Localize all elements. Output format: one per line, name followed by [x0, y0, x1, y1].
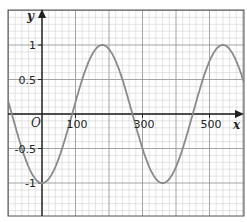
origin-label: O [31, 116, 41, 130]
plot-frame [8, 10, 244, 216]
minor-grid [8, 10, 244, 216]
major-grid [8, 10, 244, 216]
axes [8, 9, 244, 216]
svg-text:300: 300 [134, 118, 155, 131]
svg-text:-1: -1 [25, 177, 36, 190]
svg-text:500: 500 [201, 118, 222, 131]
sine-graph: 10030050010.5-0.5-1 x y O [0, 0, 247, 222]
x-axis-label: x [232, 118, 241, 132]
y-axis-label: y [26, 9, 35, 23]
svg-text:0.5: 0.5 [19, 74, 37, 87]
svg-text:1: 1 [29, 39, 36, 52]
svg-text:100: 100 [67, 118, 88, 131]
svg-text:-0.5: -0.5 [15, 143, 36, 156]
